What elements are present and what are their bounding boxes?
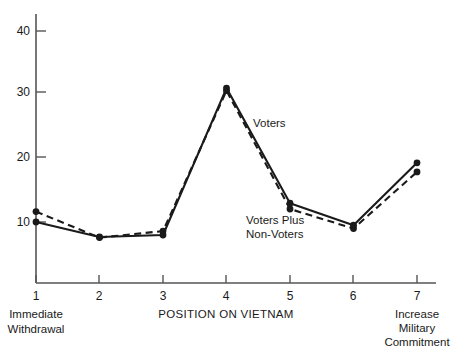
- right-endpoint-label-line2: Military: [399, 322, 436, 334]
- left-endpoint-label-line2: Withdrawal: [8, 323, 65, 335]
- data-point: [287, 206, 294, 213]
- x-axis-tick-labels: 1 2 3 4 5 6 7: [33, 289, 421, 303]
- x-tick-label-4: 4: [223, 289, 230, 303]
- x-tick-label-6: 6: [350, 289, 357, 303]
- right-endpoint-label-line3: Commitment: [384, 336, 450, 348]
- y-axis-tick-labels: 10 20 30 40: [17, 24, 31, 229]
- data-point: [223, 85, 230, 92]
- axis-lines: [36, 14, 436, 283]
- series-voters: [33, 85, 421, 241]
- y-tick-label-40: 40: [17, 24, 31, 38]
- chart-figure: 10 20 30 40 1 2 3 4 5 6 7: [0, 0, 464, 350]
- line-chart-canvas: 10 20 30 40 1 2 3 4 5 6 7: [0, 0, 464, 350]
- data-point: [33, 208, 40, 215]
- series-annotation-voters-plus-line2: Non-Voters: [246, 228, 304, 240]
- y-tick-label-20: 20: [17, 150, 31, 164]
- x-axis-ticks: [36, 275, 417, 283]
- data-point: [160, 232, 167, 239]
- y-tick-label-10: 10: [17, 215, 31, 229]
- data-point: [414, 169, 421, 176]
- series-line-solid: [36, 88, 417, 237]
- left-endpoint-label: Immediate Withdrawal: [8, 308, 65, 335]
- data-point: [350, 222, 357, 229]
- y-tick-label-30: 30: [17, 85, 31, 99]
- y-axis-ticks: [36, 31, 46, 222]
- data-point: [414, 159, 421, 166]
- data-point: [96, 234, 103, 241]
- right-endpoint-label: Increase Military Commitment: [384, 308, 450, 348]
- right-endpoint-label-line1: Increase: [395, 308, 439, 320]
- x-tick-label-7: 7: [414, 289, 421, 303]
- data-point: [287, 200, 294, 207]
- series-annotation-voters: Voters: [253, 117, 286, 129]
- x-tick-label-1: 1: [33, 289, 40, 303]
- series-annotation-voters-plus-line1: Voters Plus: [246, 214, 304, 226]
- x-tick-label-3: 3: [160, 289, 167, 303]
- x-tick-label-5: 5: [287, 289, 294, 303]
- x-tick-label-2: 2: [96, 289, 103, 303]
- data-point: [33, 219, 40, 226]
- x-axis-title: POSITION ON VIETNAM: [158, 308, 293, 320]
- series-line-dashed: [36, 91, 417, 238]
- left-endpoint-label-line1: Immediate: [9, 308, 63, 320]
